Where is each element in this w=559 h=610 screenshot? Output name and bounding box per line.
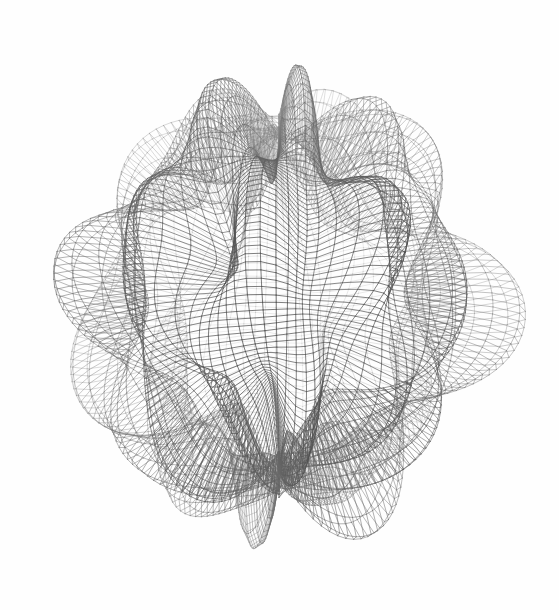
figure-root: Spherical Harmonic Wireframe Surface <box>0 0 559 610</box>
surface-wireframe-plot <box>0 0 559 610</box>
